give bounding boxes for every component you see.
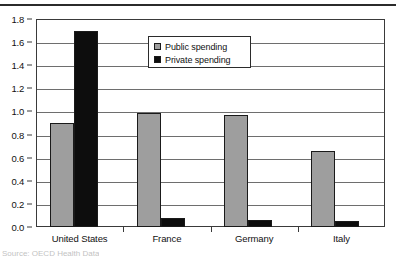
y-tick-mark [27,227,32,228]
y-tick-label: 0.4 [11,175,24,186]
source-caption: Source: OECD Health Data [2,249,99,257]
y-tick-mark [27,134,32,135]
x-axis-tick [123,227,124,232]
x-axis-label: Italy [333,233,350,244]
y-axis: 1.81.61.41.21.00.80.60.40.20.0 [0,19,32,227]
y-tick-label: 1.2 [11,83,24,94]
x-axis-label: France [152,233,181,244]
y-tick-mark [27,180,32,181]
legend-swatch-private-icon [154,56,161,63]
y-tick-label: 1.4 [11,60,24,71]
y-tick-mark [27,157,32,158]
bar-germany-private [248,220,272,227]
bar-united-states-public [50,123,74,227]
x-axis-label: United States [52,233,108,244]
y-tick-label: 0.6 [11,152,24,163]
y-tick-label: 1.0 [11,106,24,117]
x-axis-label: Germany [235,233,273,244]
legend-item-private: Private spending [154,53,250,66]
y-tick-mark [27,111,32,112]
x-axis-tick [211,227,212,232]
legend-item-public: Public spending [154,40,250,53]
legend-swatch-public-icon [154,43,161,50]
legend-label-public: Public spending [165,42,227,52]
y-tick-label: 1.8 [11,14,24,25]
chart-page: 1.81.61.41.21.00.80.60.40.20.0 United St… [0,0,396,257]
bar-italy-public [311,151,335,227]
bar-united-states-private [74,31,98,227]
y-tick-label: 0.8 [11,129,24,140]
y-tick-mark [27,88,32,89]
chart-legend: Public spending Private spending [148,36,251,68]
bar-france-private [161,218,185,227]
top-divider-rule [0,4,396,6]
y-tick-label: 1.6 [11,37,24,48]
bar-france-public [137,113,161,227]
bar-germany-public [224,115,248,227]
legend-label-private: Private spending [165,55,230,65]
y-tick-mark [27,42,32,43]
x-axis-tick [298,227,299,232]
y-tick-mark [27,203,32,204]
y-tick-label: 0.2 [11,198,24,209]
x-axis: United StatesFranceGermanyItaly [36,227,385,247]
y-tick-mark [27,19,32,20]
y-tick-mark [27,65,32,66]
y-tick-label: 0.0 [11,222,24,233]
